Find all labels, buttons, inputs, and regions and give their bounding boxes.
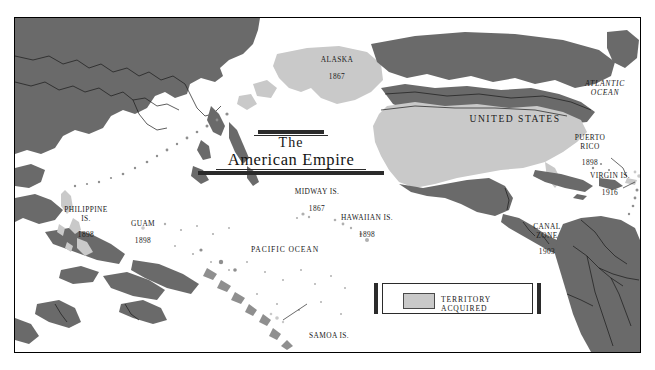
label-canal-zone-name: CANAL ZONE	[533, 222, 560, 239]
label-puerto-rico-name: PUERTO RICO	[575, 133, 606, 150]
label-samoa-islands: SAMOA IS. Condominium 1898 Divided 1899	[273, 306, 385, 353]
label-virgin-islands: VIRGIN IS. 1916	[567, 164, 641, 197]
title-rule-bottom-thin	[216, 169, 366, 170]
title-rule-top	[258, 130, 324, 134]
legend-label-territory-acquired: TERRITORY ACQUIRED	[441, 295, 532, 313]
label-hawaiian-year: 1898	[359, 230, 375, 239]
map-title-line-2: American Empire	[193, 151, 389, 168]
label-philippine-name: PHILIPPINE IS.	[64, 205, 107, 222]
label-samoa-name: SAMOA IS.	[309, 331, 349, 340]
legend-bar-left	[374, 283, 378, 314]
label-hawaiian-islands: HAWAIIAN IS. 1898	[315, 206, 419, 239]
label-canal-zone-year: 1903	[539, 247, 555, 256]
label-united-states: UNITED STATES	[440, 114, 590, 125]
label-guam-year: 1898	[135, 236, 151, 245]
label-virgin-islands-year: 1916	[602, 188, 618, 197]
label-pacific-ocean: PACIFIC OCEAN	[232, 246, 338, 255]
map-legend: TERRITORY ACQUIRED	[374, 283, 541, 314]
map-title-line-1: The	[193, 136, 389, 151]
label-virgin-islands-name: VIRGIN IS.	[590, 171, 630, 180]
label-alaska: ALASKA 1867	[287, 48, 387, 81]
label-guam: GUAM 1898	[103, 212, 183, 245]
label-midway-name: MIDWAY IS.	[295, 187, 340, 196]
american-empire-map-figure: .land{fill:#6a6a6a;stroke:none;} .acq{fi…	[0, 0, 655, 370]
legend-bar-right	[537, 283, 541, 314]
label-alaska-year: 1867	[329, 72, 345, 81]
map-frame: .land{fill:#6a6a6a;stroke:none;} .acq{fi…	[14, 17, 641, 353]
label-atlantic-ocean: ATLANTIC OCEAN	[555, 80, 641, 97]
label-hawaiian-name: HAWAIIAN IS.	[341, 213, 393, 222]
label-guam-name: GUAM	[131, 219, 155, 228]
label-puerto-rico: PUERTO RICO 1898	[549, 126, 631, 167]
map-title-block: The American Empire	[193, 130, 389, 175]
label-canal-zone: CANAL ZONE 1903	[505, 215, 589, 256]
legend-swatch-territory-acquired	[403, 293, 435, 309]
label-philippine-year: 1898	[78, 230, 94, 239]
title-rule-bottom	[198, 171, 384, 175]
label-alaska-name: ALASKA	[321, 55, 353, 64]
legend-box: TERRITORY ACQUIRED	[382, 283, 533, 314]
